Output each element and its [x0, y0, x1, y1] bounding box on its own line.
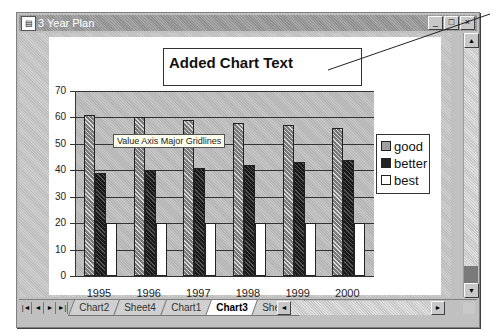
maximize-button[interactable]: □ [444, 16, 459, 30]
bar-good-1995[interactable] [84, 115, 95, 276]
legend[interactable]: good better best [376, 134, 430, 194]
tab-chart1[interactable]: Chart1 [160, 300, 212, 316]
y-tick-mark [70, 91, 75, 92]
window-title: 3 Year Plan [38, 16, 94, 30]
prev-sheet-button[interactable]: ◄ [33, 302, 44, 314]
scroll-left-icon[interactable]: ◄ [277, 301, 291, 315]
legend-item-better: better [381, 156, 427, 172]
x-tick-label: 1999 [273, 287, 323, 299]
x-tick-label: 1995 [74, 287, 124, 299]
tab-chart3[interactable]: Chart3 [205, 300, 259, 316]
bar-good-1998[interactable] [233, 123, 244, 276]
y-tick-mark [70, 144, 75, 145]
tab-sheet4[interactable]: Sheet4 [113, 300, 167, 316]
y-tick-mark [70, 170, 75, 171]
legend-item-best: best [381, 173, 419, 189]
next-sheet-button[interactable]: ► [45, 302, 56, 314]
vertical-scrollbar[interactable]: ▲ ▼ [463, 33, 478, 297]
y-tick-mark [70, 276, 75, 277]
bar-good-1999[interactable] [283, 125, 294, 276]
major-gridline[interactable] [76, 170, 374, 171]
scroll-up-icon[interactable]: ▲ [464, 33, 479, 48]
x-tick-label: 2000 [322, 287, 372, 299]
y-tick-mark [70, 197, 75, 198]
bar-better-1999[interactable] [294, 162, 305, 276]
y-tick-label: 40 [40, 164, 66, 175]
last-sheet-button[interactable]: ►| [57, 302, 68, 314]
bar-better-1996[interactable] [145, 170, 156, 276]
major-gridline[interactable] [76, 91, 374, 92]
scroll-down-icon[interactable]: ▼ [464, 283, 479, 298]
y-tick-label: 10 [40, 244, 66, 255]
x-tick-label: 1998 [223, 287, 273, 299]
y-tick-label: 0 [40, 270, 66, 281]
close-button[interactable]: × [460, 16, 475, 30]
scroll-right-icon[interactable]: ► [431, 301, 445, 315]
y-tick-label: 50 [40, 138, 66, 149]
y-tick-label: 70 [40, 85, 66, 96]
horizontal-scrollbar[interactable]: ◄ ► [277, 301, 445, 315]
major-gridline[interactable] [76, 250, 374, 251]
sheet-tabs: Chart2 Sheet4 Chart1 Chart3 Sheet3 [71, 300, 301, 316]
first-sheet-button[interactable]: |◄ [21, 302, 32, 314]
y-tick-label: 20 [40, 217, 66, 228]
bar-best-1999[interactable] [305, 223, 316, 276]
bar-best-2000[interactable] [354, 223, 365, 276]
y-tick-mark [70, 223, 75, 224]
bar-best-1995[interactable] [106, 223, 117, 276]
y-tick-mark [70, 250, 75, 251]
good-swatch-icon [381, 141, 391, 151]
major-gridline[interactable] [76, 117, 374, 118]
bar-better-1997[interactable] [194, 168, 205, 276]
x-tick-label: 1997 [173, 287, 223, 299]
better-swatch-icon [381, 158, 391, 168]
title-bar[interactable]: ▤ 3 Year Plan _ □ × [19, 15, 477, 31]
bar-better-2000[interactable] [343, 160, 354, 276]
major-gridline[interactable] [76, 223, 374, 224]
major-gridline[interactable] [76, 197, 374, 198]
added-chart-text-box[interactable]: Added Chart Text [163, 48, 362, 86]
bar-best-1996[interactable] [156, 223, 167, 276]
best-swatch-icon [381, 175, 391, 185]
bar-better-1998[interactable] [244, 165, 255, 276]
x-tick-label: 1996 [124, 287, 174, 299]
minimize-button[interactable]: _ [428, 16, 443, 30]
gridlines-tooltip: Value Axis Major Gridlines [113, 134, 225, 148]
legend-item-good: good [381, 139, 423, 155]
bar-better-1995[interactable] [95, 173, 106, 276]
y-tick-label: 60 [40, 111, 66, 122]
tab-chart2[interactable]: Chart2 [68, 300, 120, 316]
resize-grip-icon[interactable] [463, 302, 475, 314]
excel-doc-icon[interactable]: ▤ [21, 16, 36, 31]
bar-good-2000[interactable] [332, 128, 343, 276]
bar-best-1997[interactable] [205, 223, 216, 276]
bar-best-1998[interactable] [255, 223, 266, 276]
plot-area[interactable] [75, 91, 374, 277]
y-tick-label: 30 [40, 191, 66, 202]
y-tick-mark [70, 117, 75, 118]
sheet-tab-bar: |◄ ◄ ► ►| Chart2 Sheet4 Chart1 Chart3 Sh… [19, 299, 477, 316]
